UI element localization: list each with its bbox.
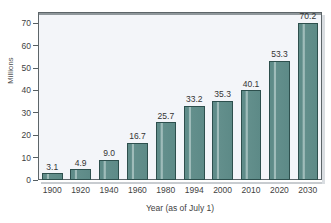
- bar-slot: 16.7: [123, 12, 151, 180]
- y-tick: 30: [0, 108, 38, 118]
- bar-slot: 53.3: [265, 12, 293, 180]
- y-tick: 10: [0, 153, 38, 163]
- bar-slot: 70.2: [294, 12, 322, 180]
- x-tick-label: 2000: [208, 185, 236, 195]
- y-tick: 70: [0, 18, 38, 28]
- bar-slot: 40.1: [237, 12, 265, 180]
- x-tick-label: 1980: [152, 185, 180, 195]
- bar-series: 3.14.99.016.725.733.235.340.153.370.2: [38, 12, 322, 180]
- plot-frame-shadow-bottom: [41, 182, 325, 184]
- x-axis-tick-labels: 1900192019401960198019942000201020202030: [38, 185, 322, 199]
- bar-value-label: 70.2: [290, 11, 327, 21]
- bar-value-label: 53.3: [261, 49, 298, 59]
- bar-value-label: 40.1: [233, 79, 270, 89]
- x-tick-label: 1960: [123, 185, 151, 195]
- x-tick-label: 2030: [294, 185, 322, 195]
- x-tick-label: 1920: [66, 185, 94, 195]
- y-tick: 60: [0, 41, 38, 51]
- x-tick-label: 2010: [237, 185, 265, 195]
- y-axis-ticks: 010203040506070: [0, 12, 38, 180]
- x-tick-label: 1900: [38, 185, 66, 195]
- bar[interactable]: [70, 169, 91, 180]
- bar-value-label: 16.7: [119, 131, 156, 141]
- plot-frame-shadow-right: [322, 15, 325, 184]
- y-tick: 40: [0, 85, 38, 95]
- bar[interactable]: [184, 106, 205, 180]
- bar-value-label: 9.0: [91, 148, 128, 158]
- y-tick: 20: [0, 130, 38, 140]
- bar[interactable]: [42, 173, 63, 180]
- bar[interactable]: [298, 23, 319, 180]
- bar-chart: Millions 010203040506070 3.14.99.016.725…: [0, 0, 331, 223]
- y-tick: 0: [0, 175, 38, 185]
- bar[interactable]: [241, 90, 262, 180]
- bar[interactable]: [127, 143, 148, 180]
- y-tick: 50: [0, 63, 38, 73]
- bar-value-label: 4.9: [62, 158, 99, 168]
- x-tick-label: 2020: [265, 185, 293, 195]
- bar[interactable]: [269, 61, 290, 180]
- x-tick-label: 1994: [180, 185, 208, 195]
- x-axis-title: Year (as of July 1): [38, 203, 322, 213]
- bar[interactable]: [212, 101, 233, 180]
- bar-slot: 3.1: [38, 12, 66, 180]
- bar[interactable]: [156, 122, 177, 180]
- bar-value-label: 25.7: [148, 111, 185, 121]
- bar-slot: 9.0: [95, 12, 123, 180]
- bar[interactable]: [99, 160, 120, 180]
- bar-value-label: 35.3: [204, 89, 241, 99]
- x-tick-label: 1940: [95, 185, 123, 195]
- bar-slot: 35.3: [208, 12, 236, 180]
